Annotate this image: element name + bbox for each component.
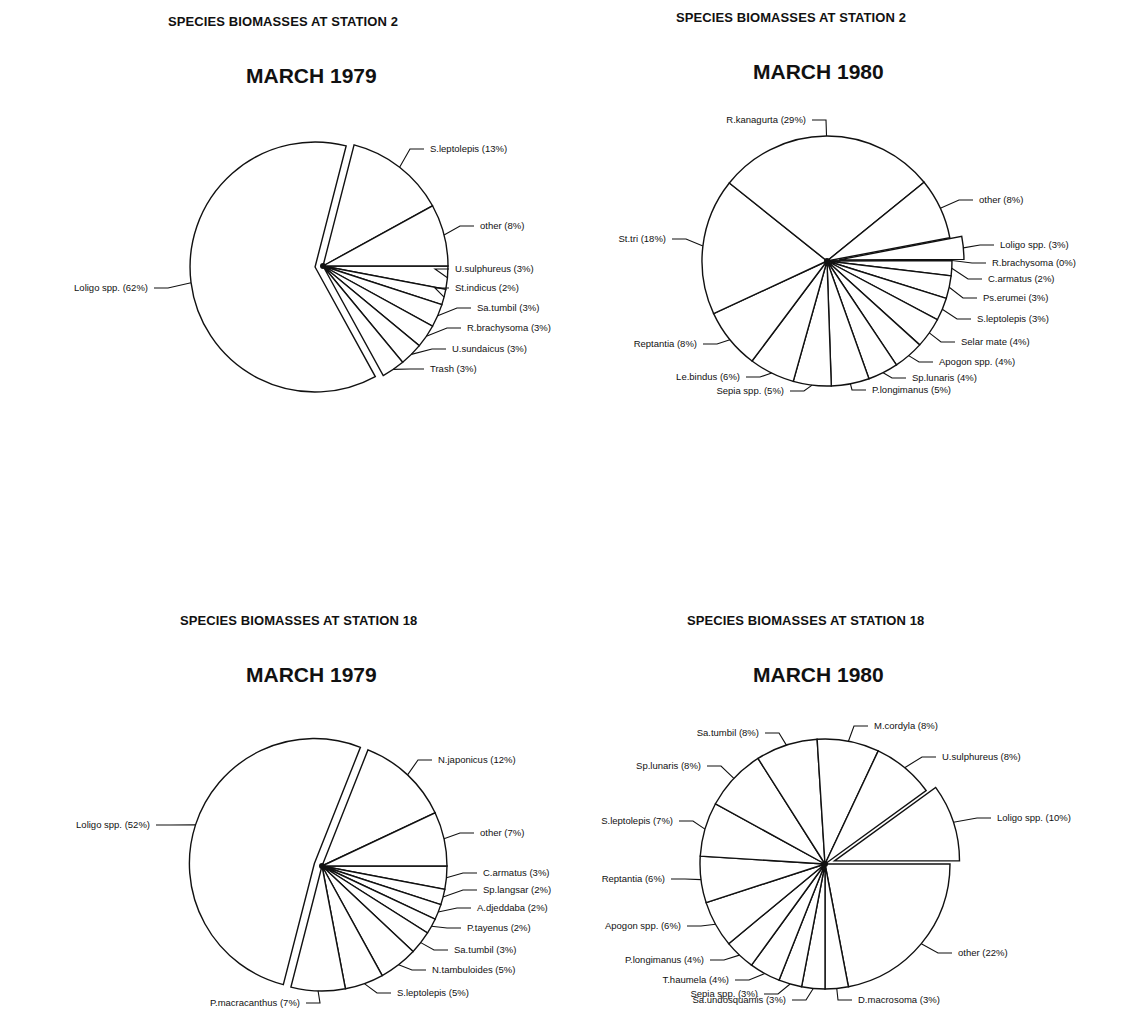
leader-line	[952, 261, 986, 263]
pie-chart-1: U.sulphureus (3%)St.indicus (2%)Sa.tumbi…	[74, 142, 551, 392]
leader-line	[940, 200, 973, 208]
leader-line	[790, 385, 812, 391]
slice-label: other (22%)	[958, 947, 1008, 958]
leader-line	[837, 988, 852, 1000]
leader-line	[929, 333, 955, 342]
leader-line	[710, 955, 739, 960]
leader-line	[672, 239, 703, 246]
leader-line	[765, 733, 786, 745]
slice-label: S.leptolepis (7%)	[601, 815, 673, 826]
slice-label: Loligo spp. (62%)	[74, 282, 148, 293]
slice-label: C.armatus (3%)	[483, 867, 550, 878]
slice-label: S.leptolepis (3%)	[977, 313, 1049, 324]
slice-label: Reptantia (6%)	[602, 873, 665, 884]
leader-line	[942, 309, 971, 319]
leader-line	[812, 120, 827, 136]
slice-label: other (8%)	[979, 194, 1023, 205]
leader-line	[909, 356, 933, 362]
slice-label: Loligo spp. (10%)	[997, 812, 1071, 823]
slice-label: other (7%)	[480, 827, 524, 838]
slice-label: U.sulphureus (3%)	[455, 263, 534, 274]
leader-line	[306, 991, 320, 1003]
pie-hub	[320, 263, 326, 269]
leader-line	[438, 908, 471, 912]
leader-line	[364, 984, 391, 993]
leader-line	[154, 283, 191, 288]
slice-label: Sepia spp. (5%)	[716, 385, 784, 396]
leader-line	[687, 924, 715, 926]
leader-line	[949, 287, 977, 298]
leader-line	[446, 873, 477, 878]
slice-label: Sepia spp. (3%)	[690, 988, 758, 999]
slice-label: R.brachysoma (3%)	[467, 322, 551, 333]
leader-line	[421, 943, 448, 950]
leader-line	[432, 926, 461, 928]
leader-line	[408, 760, 432, 775]
slice-label: Sa.tumbil (3%)	[454, 944, 516, 955]
leader-line	[443, 890, 477, 897]
leader-line	[963, 245, 994, 248]
leader-line	[792, 988, 813, 1000]
slice-label: Sp.langsar (2%)	[483, 884, 551, 895]
slice-label: other (8%)	[480, 220, 524, 231]
leader-line	[953, 818, 991, 822]
slice-label: M.cordyla (8%)	[874, 720, 938, 731]
slice-label: Sp.lunaris (4%)	[912, 372, 977, 383]
slice-label: P.longimanus (4%)	[625, 954, 704, 965]
pie-chart-2: Loligo spp. (3%)R.brachysoma (0%)C.armat…	[618, 114, 1075, 396]
leader-line	[850, 384, 866, 390]
slice-label: Sa.tumbil (8%)	[697, 727, 759, 738]
slice-label: Loligo spp. (3%)	[1000, 239, 1069, 250]
leader-line	[952, 268, 982, 279]
slice-label: Apogon spp. (6%)	[605, 920, 681, 931]
slice-label: D.macrosoma (3%)	[858, 994, 940, 1005]
leader-line	[679, 821, 705, 829]
slice-label: U.sulphureus (8%)	[942, 751, 1021, 762]
pie-hub	[319, 863, 325, 869]
leader-line	[671, 879, 701, 880]
slice-label: P.longimanus (5%)	[872, 384, 951, 395]
pie-charts-canvas: U.sulphureus (3%)St.indicus (2%)Sa.tumbi…	[0, 0, 1142, 1020]
slice-label: P.tayenus (2%)	[467, 922, 531, 933]
slice-label: N.japonicus (12%)	[438, 754, 516, 765]
leader-line	[444, 226, 474, 235]
slice-label: Le.bindus (6%)	[676, 371, 740, 382]
leader-line	[703, 340, 730, 344]
slice-label: T.haumela (4%)	[662, 974, 729, 985]
slice-label: Trash (3%)	[430, 363, 477, 374]
slice-label: Selar mate (4%)	[961, 336, 1030, 347]
slice-label: C.armatus (2%)	[988, 273, 1055, 284]
leader-line	[735, 974, 765, 980]
leader-line	[707, 766, 734, 778]
leader-line	[400, 149, 424, 167]
pie-hub	[822, 861, 828, 867]
pie-chart-4: other (22%)D.macrosoma (3%)Sa.undosquami…	[601, 720, 1071, 1005]
leader-line	[848, 726, 868, 741]
pie-hub	[824, 258, 830, 264]
slice-label: U.sundaicus (3%)	[452, 343, 527, 354]
leader-line	[764, 984, 790, 994]
slice-label: A.djeddaba (2%)	[477, 902, 548, 913]
leader-line	[444, 833, 474, 839]
slice-label: Loligo spp. (52%)	[76, 819, 150, 830]
slice-label: S.leptolepis (13%)	[430, 143, 507, 154]
pie-chart-3: C.armatus (3%)Sp.langsar (2%)A.djeddaba …	[76, 739, 551, 1008]
slice-label: Sp.lunaris (8%)	[636, 760, 701, 771]
slice-label: S.leptolepis (5%)	[397, 987, 469, 998]
slice-label: St.indicus (2%)	[455, 282, 519, 293]
leader-line	[883, 373, 906, 378]
slice-label: N.tambuloides (5%)	[432, 964, 515, 975]
slice-label: R.kanagurta (29%)	[726, 114, 806, 125]
slice-label: St.tri (18%)	[618, 233, 666, 244]
slice-label: Sa.tumbil (3%)	[477, 302, 539, 313]
slice-label: Reptantia (8%)	[634, 338, 697, 349]
leader-line	[921, 944, 952, 953]
slice-label: P.macracanthus (7%)	[210, 997, 300, 1008]
leader-line	[746, 373, 772, 377]
slice-label: Apogon spp. (4%)	[939, 356, 1015, 367]
leader-line	[438, 308, 471, 316]
leader-line	[399, 965, 426, 970]
slice-label: R.brachysoma (0%)	[992, 257, 1076, 268]
slice-label: Ps.erumei (3%)	[983, 292, 1048, 303]
leader-line	[905, 757, 936, 768]
